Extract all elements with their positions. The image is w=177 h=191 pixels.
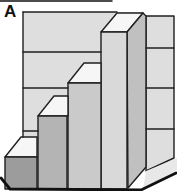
step1-front-face <box>5 157 37 189</box>
right-wall-face <box>146 16 174 171</box>
panel-label: A <box>4 3 16 20</box>
step2-front-face <box>38 116 67 189</box>
step1-top-face <box>5 137 37 157</box>
step4-side-face <box>127 13 146 188</box>
step3-front-face <box>68 83 101 189</box>
staircase-strata-diagram <box>0 0 177 191</box>
step4-front-face <box>101 32 127 189</box>
figure-panel: A <box>0 0 177 191</box>
